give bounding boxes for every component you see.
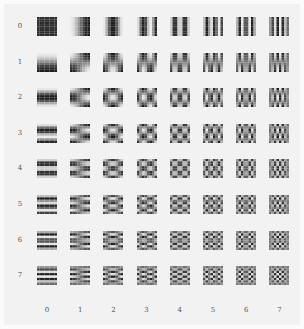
row-label: 6: [15, 236, 25, 244]
basis-cell-r2-c1: [70, 88, 90, 107]
basis-cell-r2-c7: [269, 88, 289, 107]
basis-cell-r6-c6: [236, 231, 256, 250]
basis-cell-r5-c7: [269, 195, 289, 214]
row-label: 2: [15, 93, 25, 101]
basis-cell-r2-c6: [236, 88, 256, 107]
basis-cell-r1-c1: [70, 53, 90, 72]
basis-cell-r6-c7: [269, 231, 289, 250]
basis-cell-r4-c6: [236, 159, 256, 178]
basis-cell-r2-c5: [203, 88, 223, 107]
basis-cell-r4-c2: [103, 159, 123, 178]
basis-cell-r4-c5: [203, 159, 223, 178]
col-label: 4: [170, 306, 190, 314]
col-label: 5: [203, 306, 223, 314]
col-label: 6: [236, 306, 256, 314]
basis-cell-r5-c4: [170, 195, 190, 214]
basis-cell-r6-c5: [203, 231, 223, 250]
basis-cell-r1-c4: [170, 53, 190, 72]
basis-cell-r4-c7: [269, 159, 289, 178]
row-label: 7: [15, 271, 25, 279]
basis-cell-r0-c4: [170, 17, 190, 36]
basis-cell-r3-c1: [70, 124, 90, 143]
col-label: 3: [137, 306, 157, 314]
row-label: 3: [15, 129, 25, 137]
basis-cell-r0-c0: [37, 17, 57, 36]
basis-cell-r1-c3: [137, 53, 157, 72]
basis-cell-r5-c2: [103, 195, 123, 214]
basis-cell-r5-c6: [236, 195, 256, 214]
basis-cell-r0-c7: [269, 17, 289, 36]
basis-cell-r1-c6: [236, 53, 256, 72]
basis-cell-r5-c1: [70, 195, 90, 214]
basis-cell-r3-c6: [236, 124, 256, 143]
basis-cell-r3-c7: [269, 124, 289, 143]
row-label: 0: [15, 22, 25, 30]
basis-cell-r5-c0: [37, 195, 57, 214]
row-label: 5: [15, 200, 25, 208]
col-label: 2: [103, 306, 123, 314]
col-label: 7: [269, 306, 289, 314]
basis-cell-r7-c2: [103, 266, 123, 285]
basis-cell-r6-c1: [70, 231, 90, 250]
basis-cell-r7-c3: [137, 266, 157, 285]
basis-cell-r4-c4: [170, 159, 190, 178]
dct-basis-grid: 0123456701234567: [4, 4, 300, 325]
basis-cell-r6-c0: [37, 231, 57, 250]
basis-cell-r0-c1: [70, 17, 90, 36]
basis-cell-r7-c5: [203, 266, 223, 285]
row-label: 4: [15, 164, 25, 172]
basis-cell-r3-c5: [203, 124, 223, 143]
basis-cell-r7-c4: [170, 266, 190, 285]
basis-cell-r0-c5: [203, 17, 223, 36]
basis-cell-r4-c0: [37, 159, 57, 178]
basis-cell-r1-c0: [37, 53, 57, 72]
basis-cell-r7-c1: [70, 266, 90, 285]
basis-cell-r4-c3: [137, 159, 157, 178]
basis-cell-r0-c3: [137, 17, 157, 36]
basis-cell-r1-c2: [103, 53, 123, 72]
basis-cell-r6-c3: [137, 231, 157, 250]
basis-cell-r7-c6: [236, 266, 256, 285]
basis-cell-r1-c5: [203, 53, 223, 72]
basis-cell-r0-c6: [236, 17, 256, 36]
basis-cell-r3-c2: [103, 124, 123, 143]
basis-cell-r2-c4: [170, 88, 190, 107]
basis-cell-r1-c7: [269, 53, 289, 72]
basis-cell-r2-c0: [37, 88, 57, 107]
basis-cell-r4-c1: [70, 159, 90, 178]
basis-cell-r5-c5: [203, 195, 223, 214]
basis-cell-r3-c0: [37, 124, 57, 143]
col-label: 1: [70, 306, 90, 314]
basis-cell-r6-c4: [170, 231, 190, 250]
basis-cell-r2-c3: [137, 88, 157, 107]
basis-cell-r7-c7: [269, 266, 289, 285]
row-label: 1: [15, 58, 25, 66]
basis-cell-r6-c2: [103, 231, 123, 250]
basis-cell-r0-c2: [103, 17, 123, 36]
basis-cell-r5-c3: [137, 195, 157, 214]
basis-cell-r7-c0: [37, 266, 57, 285]
basis-cell-r3-c3: [137, 124, 157, 143]
col-label: 0: [37, 306, 57, 314]
basis-cell-r3-c4: [170, 124, 190, 143]
basis-cell-r2-c2: [103, 88, 123, 107]
